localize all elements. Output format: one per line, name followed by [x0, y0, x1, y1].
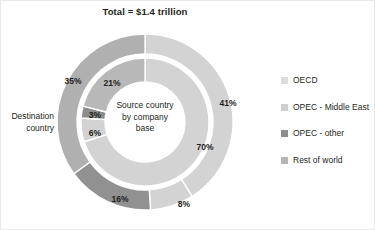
destination-label-line2: country [0, 123, 54, 135]
slice-percentage-label: 16% [111, 194, 128, 204]
legend-label: OPEC - Middle East [293, 103, 369, 113]
slice-percentage-label: 3% [89, 110, 101, 120]
center-label-line3: base [105, 123, 185, 135]
chart-legend: OECD OPEC - Middle East OPEC - other Res… [281, 76, 375, 182]
legend-swatch-icon [281, 130, 288, 137]
slice-percentage-label: 35% [64, 76, 81, 86]
legend-item-oecd: OECD [281, 76, 375, 86]
legend-item-opec-other: OPEC - other [281, 129, 375, 139]
slice-percentage-label: 41% [219, 98, 236, 108]
legend-label: Rest of world [293, 156, 343, 166]
slice-percentage-label: 8% [178, 199, 190, 209]
slice-percentage-label: 6% [89, 128, 101, 138]
legend-item-opec-middle-east: OPEC - Middle East [281, 103, 375, 113]
slice-percentage-label: 70% [196, 142, 213, 152]
legend-item-rest-of-world: Rest of world [281, 156, 375, 166]
destination-label-line1: Destination [0, 111, 54, 123]
legend-label: OPEC - other [293, 129, 344, 139]
destination-country-label: Destination country [0, 111, 54, 134]
legend-label: OECD [293, 76, 318, 86]
center-label: Source country by company base [105, 100, 185, 135]
center-label-line2: by company [105, 112, 185, 124]
legend-swatch-icon [281, 157, 288, 164]
center-label-line1: Source country [105, 100, 185, 112]
chart-title: Total = $1.4 trillion [0, 6, 290, 17]
legend-swatch-icon [281, 104, 288, 111]
slice-percentage-label: 21% [103, 78, 120, 88]
legend-swatch-icon [281, 77, 288, 84]
